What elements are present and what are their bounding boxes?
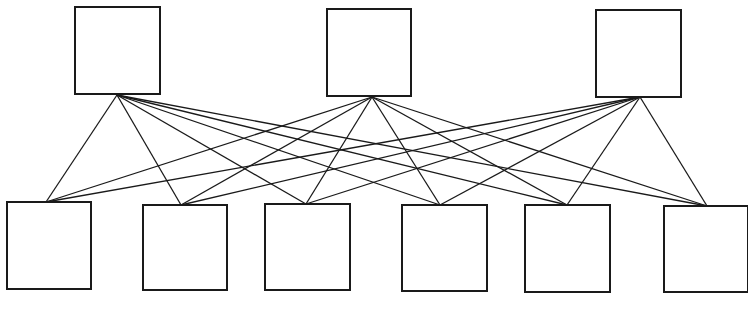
edge-t2-b2 <box>181 97 372 205</box>
network-diagram <box>0 0 748 316</box>
edge-t1-b1 <box>46 95 117 202</box>
bottom-node-b5 <box>525 205 610 292</box>
node-box <box>596 10 681 97</box>
edge-t3-b3 <box>306 97 640 204</box>
node-box <box>75 7 160 94</box>
edges <box>46 95 707 206</box>
bottom-node-b3 <box>265 204 350 290</box>
edge-t1-b2 <box>117 95 181 205</box>
edge-t3-b6 <box>640 97 707 206</box>
node-box <box>402 205 487 291</box>
figure-caption <box>255 305 495 315</box>
edge-t3-b5 <box>567 97 640 205</box>
bottom-node-b2 <box>143 205 227 290</box>
top-node-t1 <box>75 7 160 94</box>
nodes <box>7 7 748 292</box>
top-node-t3 <box>596 10 681 97</box>
edge-t3-b2 <box>181 97 640 205</box>
bottom-node-b6 <box>664 206 748 292</box>
node-box <box>265 204 350 290</box>
node-box <box>664 206 748 292</box>
top-node-t2 <box>327 9 411 96</box>
edge-t2-b4 <box>372 97 440 205</box>
node-box <box>327 9 411 96</box>
bottom-node-b1 <box>7 202 91 289</box>
bottom-node-b4 <box>402 205 487 291</box>
node-box <box>7 202 91 289</box>
node-box <box>525 205 610 292</box>
node-box <box>143 205 227 290</box>
